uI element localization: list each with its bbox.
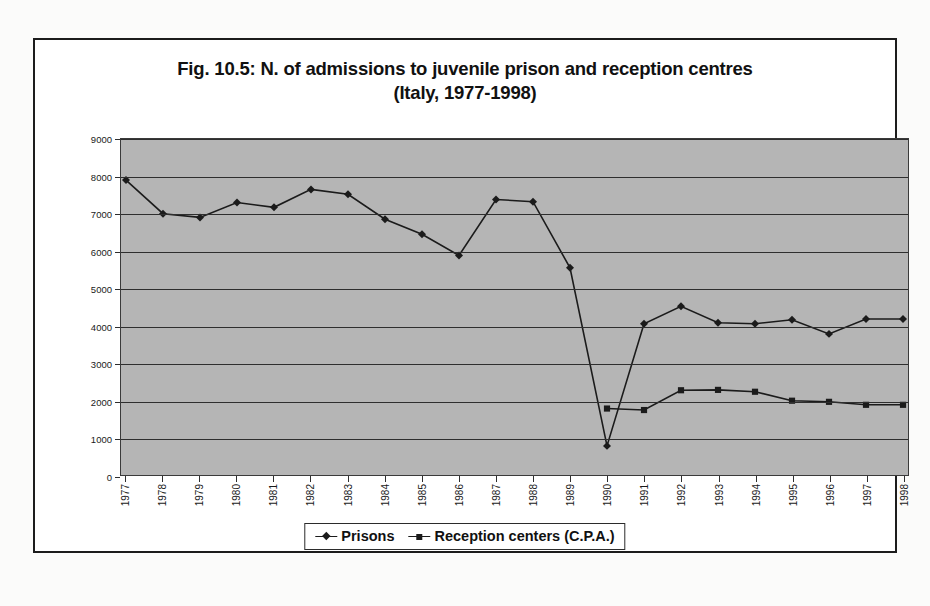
gridline — [121, 364, 908, 365]
y-axis-tick-label: 5000 — [91, 284, 112, 295]
diamond-marker-icon — [418, 230, 426, 238]
x-axis-tick-label: 1987 — [491, 484, 502, 506]
y-axis-tick-label: 2000 — [91, 396, 112, 407]
x-axis-tick-mark — [830, 476, 831, 482]
x-axis-tick-mark — [236, 476, 237, 482]
x-axis-tick-label: 1994 — [751, 484, 762, 506]
x-axis-tick-label: 1979 — [194, 484, 205, 506]
x-axis-tick-mark — [570, 476, 571, 482]
diamond-marker-icon — [566, 264, 574, 272]
diamond-marker-icon — [233, 198, 241, 206]
x-axis-tick-label: 1985 — [417, 484, 428, 506]
x-axis-tick-mark — [719, 476, 720, 482]
square-marker-icon — [715, 387, 721, 393]
chart-legend: Prisons Reception centers (C.P.A.) — [304, 523, 625, 550]
figure-frame: Fig. 10.5: N. of admissions to juvenile … — [33, 38, 897, 553]
x-axis-tick-label: 1998 — [899, 484, 910, 506]
x-axis-tick-mark — [867, 476, 868, 482]
diamond-marker-icon — [862, 315, 870, 323]
y-axis-tick-label: 6000 — [91, 246, 112, 257]
square-marker-icon — [641, 407, 647, 413]
gridline — [121, 289, 908, 290]
x-axis-tick-label: 1997 — [862, 484, 873, 506]
x-axis-tick-label: 1980 — [231, 484, 242, 506]
gridline — [121, 252, 908, 253]
x-axis-tick-label: 1981 — [268, 484, 279, 506]
chart-title-line-2: (Italy, 1977-1998) — [35, 81, 895, 105]
x-axis-tick-label: 1984 — [380, 484, 391, 506]
x-axis-tick-label: 1983 — [343, 484, 354, 506]
y-axis-tick-label: 0 — [107, 472, 112, 483]
y-axis-tick-label: 8000 — [91, 171, 112, 182]
x-axis-tick-mark — [199, 476, 200, 482]
y-axis: 0100020003000400050006000700080009000 — [35, 138, 120, 478]
x-axis-tick-label: 1990 — [602, 484, 613, 506]
x-axis-tick-label: 1977 — [120, 484, 131, 506]
x-axis-tick-mark — [348, 476, 349, 482]
series-line-prisons — [126, 180, 903, 446]
y-axis-tick-label: 3000 — [91, 359, 112, 370]
legend-label-prisons: Prisons — [341, 528, 394, 544]
x-axis-tick-mark — [422, 476, 423, 482]
diamond-marker-icon — [825, 330, 833, 338]
gridline — [121, 177, 908, 178]
x-axis-tick-label: 1992 — [676, 484, 687, 506]
x-axis-tick-mark — [904, 476, 905, 482]
diamond-marker-icon — [899, 315, 907, 323]
square-marker-icon — [604, 405, 610, 411]
x-axis-tick-label: 1991 — [639, 484, 650, 506]
chart-title-line-1: Fig. 10.5: N. of admissions to juvenile … — [35, 57, 895, 81]
x-axis-tick-mark — [644, 476, 645, 482]
x-axis-tick-mark — [793, 476, 794, 482]
x-axis-tick-mark — [681, 476, 682, 482]
diamond-marker-icon — [677, 302, 685, 310]
chart-title: Fig. 10.5: N. of admissions to juvenile … — [35, 57, 895, 106]
y-axis-tick-label: 1000 — [91, 434, 112, 445]
diamond-marker-icon — [529, 198, 537, 206]
x-axis-tick-label: 1995 — [788, 484, 799, 506]
x-axis-ticks — [120, 476, 910, 483]
x-axis-tick-mark — [273, 476, 274, 482]
gridline — [121, 139, 908, 140]
page-background: Fig. 10.5: N. of admissions to juvenile … — [0, 0, 930, 606]
square-marker-icon — [678, 387, 684, 393]
gridline — [121, 402, 908, 403]
x-axis-tick-mark — [162, 476, 163, 482]
plot-area — [120, 138, 909, 476]
x-axis-tick-label: 1989 — [565, 484, 576, 506]
x-axis-tick-mark — [533, 476, 534, 482]
square-marker-icon — [408, 531, 430, 541]
legend-item-reception-centers: Reception centers (C.P.A.) — [408, 528, 614, 544]
y-axis-tick-label: 7000 — [91, 209, 112, 220]
x-axis-tick-mark — [385, 476, 386, 482]
x-axis-tick-label: 1982 — [305, 484, 316, 506]
x-axis-tick-label: 1993 — [714, 484, 725, 506]
x-axis-tick-mark — [607, 476, 608, 482]
square-marker-icon — [752, 389, 758, 395]
x-axis-tick-mark — [125, 476, 126, 482]
x-axis-tick-label: 1986 — [454, 484, 465, 506]
legend-label-reception-centers: Reception centers (C.P.A.) — [434, 528, 614, 544]
x-axis-tick-mark — [310, 476, 311, 482]
diamond-marker-icon — [788, 316, 796, 324]
diamond-marker-icon — [307, 185, 315, 193]
x-axis-tick-mark — [496, 476, 497, 482]
gridline — [121, 439, 908, 440]
diamond-marker-icon — [315, 531, 337, 541]
diamond-marker-icon — [603, 442, 611, 450]
legend-item-prisons: Prisons — [315, 528, 394, 544]
diamond-marker-icon — [714, 319, 722, 327]
x-axis-tick-mark — [756, 476, 757, 482]
y-axis-tick-label: 4000 — [91, 321, 112, 332]
x-axis-tick-label: 1996 — [825, 484, 836, 506]
diamond-marker-icon — [270, 203, 278, 211]
y-axis-tick-label: 9000 — [91, 134, 112, 145]
x-axis-tick-label: 1978 — [157, 484, 168, 506]
x-axis-tick-label: 1988 — [528, 484, 539, 506]
series-lines — [121, 139, 908, 475]
gridline — [121, 327, 908, 328]
gridline — [121, 214, 908, 215]
x-axis-tick-mark — [459, 476, 460, 482]
